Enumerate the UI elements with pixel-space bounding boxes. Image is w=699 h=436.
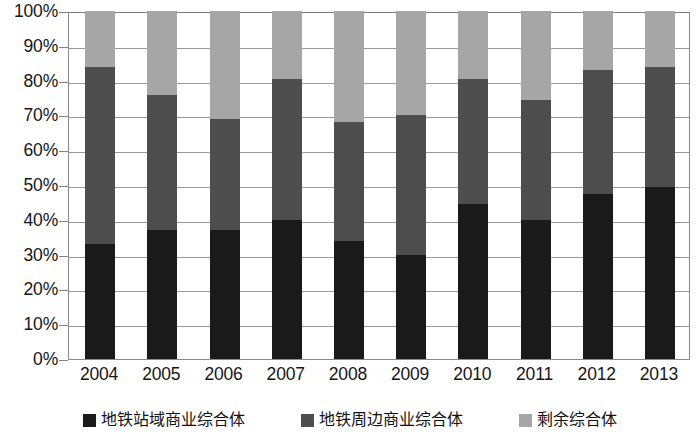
bar-segment[interactable] bbox=[85, 244, 115, 359]
legend-swatch-icon bbox=[83, 414, 96, 427]
bar-segment[interactable] bbox=[396, 255, 426, 359]
bar-stack[interactable] bbox=[272, 11, 302, 359]
legend-label: 剩余综合体 bbox=[537, 412, 617, 428]
bar-segment[interactable] bbox=[521, 11, 551, 100]
x-axis-tick-label: 2005 bbox=[142, 366, 180, 384]
y-axis-tick-label: 60% bbox=[24, 142, 58, 160]
y-axis-tick-mark bbox=[59, 290, 68, 291]
bar-segment[interactable] bbox=[210, 11, 240, 119]
bar-segment[interactable] bbox=[396, 11, 426, 115]
bar-stack[interactable] bbox=[583, 11, 613, 359]
y-axis-tick-mark bbox=[59, 256, 68, 257]
bar-segment[interactable] bbox=[458, 79, 488, 204]
bar-segment[interactable] bbox=[210, 119, 240, 230]
bar-segment[interactable] bbox=[272, 220, 302, 359]
legend-swatch-icon bbox=[519, 414, 532, 427]
y-axis-tick-label: 20% bbox=[24, 282, 58, 300]
y-axis-tick-mark bbox=[59, 186, 68, 187]
bar-segment[interactable] bbox=[334, 241, 364, 359]
plot-area bbox=[68, 12, 690, 360]
y-axis-tick-label: 50% bbox=[24, 177, 58, 195]
bar-segment[interactable] bbox=[583, 70, 613, 194]
y-axis-tick-label: 80% bbox=[24, 73, 58, 91]
y-axis-tick-mark bbox=[59, 116, 68, 117]
bar-segment[interactable] bbox=[147, 230, 177, 359]
bars-layer bbox=[69, 13, 689, 359]
bar-segment[interactable] bbox=[645, 67, 675, 187]
bar-segment[interactable] bbox=[458, 204, 488, 359]
y-axis-tick-label: 0% bbox=[33, 351, 58, 369]
bar-segment[interactable] bbox=[334, 122, 364, 240]
y-axis-tick-mark bbox=[59, 325, 68, 326]
x-axis-tick-label: 2009 bbox=[391, 366, 429, 384]
bar-segment[interactable] bbox=[272, 11, 302, 79]
bar-segment[interactable] bbox=[85, 11, 115, 67]
x-axis-tick-label: 2012 bbox=[578, 366, 616, 384]
bar-segment[interactable] bbox=[521, 220, 551, 359]
y-axis-tick-label: 70% bbox=[24, 108, 58, 126]
bar-segment[interactable] bbox=[147, 11, 177, 95]
x-axis: 2004200520062007200820092010201120122013 bbox=[68, 362, 690, 394]
stacked-bar-chart: 0%10%20%30%40%50%60%70%80%90%100% 200420… bbox=[0, 0, 699, 436]
bar-segment[interactable] bbox=[334, 11, 364, 122]
y-axis-tick-label: 10% bbox=[24, 316, 58, 334]
y-axis-tick-mark bbox=[59, 47, 68, 48]
bar-segment[interactable] bbox=[583, 194, 613, 359]
bar-segment[interactable] bbox=[85, 67, 115, 244]
legend-item[interactable]: 地铁周边商业综合体 bbox=[301, 412, 463, 428]
legend-item[interactable]: 地铁站域商业综合体 bbox=[83, 412, 245, 428]
bar-segment[interactable] bbox=[583, 11, 613, 70]
y-axis-tick-mark bbox=[59, 12, 68, 13]
bar-segment[interactable] bbox=[396, 115, 426, 254]
bar-stack[interactable] bbox=[85, 11, 115, 359]
y-axis-tick-mark bbox=[59, 151, 68, 152]
bar-segment[interactable] bbox=[458, 11, 488, 79]
y-axis-tick-label: 100% bbox=[14, 3, 58, 21]
x-axis-tick-label: 2010 bbox=[453, 366, 491, 384]
bar-segment[interactable] bbox=[147, 95, 177, 231]
legend-label: 地铁周边商业综合体 bbox=[319, 412, 463, 428]
bar-stack[interactable] bbox=[521, 11, 551, 359]
y-axis: 0%10%20%30%40%50%60%70%80%90%100% bbox=[0, 0, 68, 370]
bar-stack[interactable] bbox=[147, 11, 177, 359]
y-axis-tick-mark bbox=[59, 82, 68, 83]
bar-segment[interactable] bbox=[521, 100, 551, 220]
legend-swatch-icon bbox=[301, 414, 314, 427]
bar-segment[interactable] bbox=[645, 11, 675, 67]
y-axis-tick-mark bbox=[59, 221, 68, 222]
bar-segment[interactable] bbox=[645, 187, 675, 359]
bar-segment[interactable] bbox=[210, 230, 240, 359]
x-axis-tick-label: 2011 bbox=[516, 366, 553, 384]
x-axis-tick-label: 2004 bbox=[80, 366, 118, 384]
x-axis-tick-label: 2006 bbox=[204, 366, 242, 384]
y-axis-tick-label: 30% bbox=[24, 247, 58, 265]
bar-stack[interactable] bbox=[334, 11, 364, 359]
bar-stack[interactable] bbox=[396, 11, 426, 359]
bar-segment[interactable] bbox=[272, 79, 302, 220]
y-axis-tick-label: 90% bbox=[24, 38, 58, 56]
y-axis-tick-label: 40% bbox=[24, 212, 58, 230]
bar-stack[interactable] bbox=[210, 11, 240, 359]
x-axis-tick-label: 2008 bbox=[329, 366, 367, 384]
y-axis-tick-mark bbox=[59, 360, 68, 361]
bar-stack[interactable] bbox=[645, 11, 675, 359]
legend-label: 地铁站域商业综合体 bbox=[101, 412, 245, 428]
bar-stack[interactable] bbox=[458, 11, 488, 359]
x-axis-tick-label: 2013 bbox=[640, 366, 678, 384]
x-axis-tick-label: 2007 bbox=[267, 366, 305, 384]
legend-item[interactable]: 剩余综合体 bbox=[519, 412, 617, 428]
chart-legend: 地铁站域商业综合体地铁周边商业综合体剩余综合体 bbox=[0, 404, 699, 436]
